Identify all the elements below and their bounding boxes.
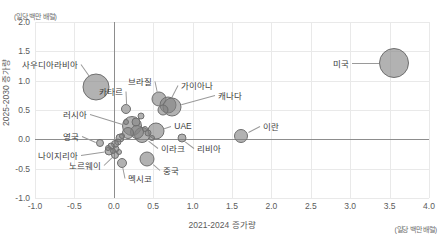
bubble-unlabeled-29[interactable] [149, 135, 155, 141]
bubble-멕시코[interactable] [117, 158, 127, 168]
y-tick-label: 1.0 [18, 76, 30, 86]
y-gridline [35, 198, 429, 199]
point-label-미국: 미국 [333, 57, 349, 69]
point-label-이라크: 이라크 [161, 142, 185, 154]
point-label-영국: 영국 [63, 130, 79, 142]
y-gridline [35, 22, 429, 23]
x-axis-unit-note: (일당 백만 배럴) [394, 224, 437, 234]
point-label-이란: 이란 [263, 120, 279, 132]
plot-area: -1.0-0.50.00.51.01.52.02.53.03.54.02.01.… [35, 22, 429, 198]
point-label-캐나다: 캐나다 [218, 89, 242, 101]
bubble-chart: (일당 백만 배럴) 2025-2030 증가량 -1.0-0.50.00.51… [0, 0, 445, 246]
x-zero-axis [114, 22, 115, 198]
y-gridline [35, 51, 429, 52]
point-label-리비아: 리비아 [197, 142, 221, 154]
x-gridline [429, 22, 430, 198]
y-tick-label: 0.0 [18, 134, 30, 144]
x-axis-title: 2021-2024 증가량 [188, 218, 255, 230]
point-label-멕시코: 멕시코 [128, 172, 152, 184]
bubble-unlabeled-32[interactable] [123, 119, 129, 125]
bubble-unlabeled-26[interactable] [116, 149, 122, 155]
x-tick-label: 0.5 [147, 201, 159, 211]
y-gridline [35, 110, 429, 111]
x-tick-label: 1.5 [226, 201, 238, 211]
y-axis-title: 2025-2030 증가량 [0, 59, 11, 126]
point-label-UAE: UAE [174, 121, 191, 131]
bubble-unlabeled-31[interactable] [137, 112, 144, 119]
leader-line [125, 92, 127, 105]
y-tick-label: 2.0 [18, 17, 30, 27]
x-tick-label: 2.0 [265, 201, 277, 211]
point-label-카타르: 카타르 [99, 85, 123, 97]
point-label-사우디아라비아: 사우디아라비아 [22, 58, 78, 70]
point-label-러시아: 러시아 [63, 108, 87, 120]
bubble-미국[interactable] [379, 48, 409, 78]
point-label-브라질: 브라질 [128, 75, 152, 87]
x-tick-label: 3.0 [344, 201, 356, 211]
y-tick-label: 0.5 [18, 105, 30, 115]
point-label-노르웨이: 노르웨이 [69, 159, 101, 171]
x-tick-label: -0.5 [67, 201, 82, 211]
bubble-unlabeled-30[interactable] [142, 126, 148, 132]
y-tick-label: -0.5 [15, 164, 30, 174]
x-tick-label: 2.5 [305, 201, 317, 211]
point-label-중국: 중국 [163, 164, 179, 176]
leader-line [352, 63, 379, 64]
y-tick-label: -1.0 [15, 193, 30, 203]
y-tick-label: 1.5 [18, 46, 30, 56]
bubble-unlabeled-33[interactable] [157, 105, 168, 116]
bubble-이란[interactable] [234, 129, 248, 143]
x-tick-label: 4.0 [423, 201, 435, 211]
bubble-영국[interactable] [96, 139, 104, 147]
point-label-가이아나: 가이아나 [181, 79, 213, 91]
x-tick-label: 1.0 [187, 201, 199, 211]
bubble-unlabeled-27[interactable] [119, 133, 125, 139]
x-tick-label: 3.5 [384, 201, 396, 211]
y-zero-axis [35, 139, 429, 140]
bubble-카타르[interactable] [121, 104, 131, 114]
x-tick-label: 0.0 [108, 201, 120, 211]
